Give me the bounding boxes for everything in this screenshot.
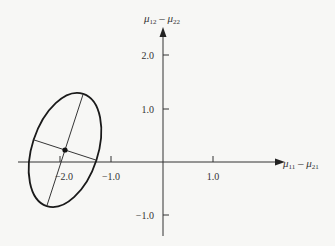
- y-axis-label: μ12 – μ22: [143, 12, 181, 26]
- x-tick-label-neg1: −1.0: [102, 171, 120, 182]
- y-tick-label-neg1: −1.0: [136, 210, 154, 221]
- x-axis-label: μ11 – μ21: [282, 157, 319, 171]
- y-axis-arrow-icon: [160, 27, 167, 37]
- y-tick-label-1: 1.0: [142, 104, 155, 115]
- diagram-canvas: −2.0 −1.0 1.0 2.0 1.0 −1.0 μ12 – μ22 μ11…: [0, 0, 335, 246]
- ellipse-center-point: [62, 147, 67, 152]
- diagram-svg: −2.0 −1.0 1.0 2.0 1.0 −1.0 μ12 – μ22 μ11…: [0, 0, 335, 246]
- y-tick-label-2: 2.0: [142, 50, 155, 61]
- x-tick-label-pos1: 1.0: [207, 171, 220, 182]
